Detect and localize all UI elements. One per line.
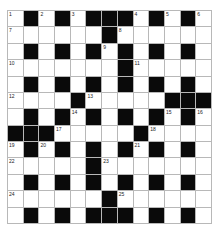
crossword-cell[interactable] [71, 44, 86, 59]
crossword-cell[interactable]: 13 [86, 93, 101, 108]
crossword-cell[interactable] [24, 60, 39, 75]
crossword-cell[interactable]: 25 [118, 191, 133, 206]
crossword-cell[interactable]: 23 [102, 158, 117, 173]
crossword-cell[interactable] [165, 27, 180, 42]
crossword-cell[interactable] [181, 158, 196, 173]
crossword-cell[interactable] [8, 44, 23, 59]
crossword-cell[interactable] [165, 60, 180, 75]
crossword-cell[interactable]: 11 [134, 60, 149, 75]
crossword-cell[interactable] [24, 93, 39, 108]
crossword-cell[interactable] [39, 109, 54, 124]
crossword-cell[interactable] [71, 142, 86, 157]
crossword-cell[interactable] [86, 60, 101, 75]
crossword-cell[interactable] [102, 93, 117, 108]
crossword-cell[interactable]: 2 [39, 11, 54, 26]
crossword-cell[interactable] [39, 27, 54, 42]
crossword-cell[interactable]: 17 [55, 126, 70, 141]
crossword-cell[interactable] [39, 44, 54, 59]
crossword-cell[interactable] [165, 126, 180, 141]
crossword-cell[interactable]: 5 [165, 11, 180, 26]
crossword-cell[interactable] [196, 158, 211, 173]
crossword-cell[interactable] [118, 126, 133, 141]
crossword-cell[interactable] [71, 27, 86, 42]
crossword-cell[interactable] [196, 175, 211, 190]
crossword-cell[interactable] [196, 60, 211, 75]
crossword-cell[interactable]: 20 [39, 142, 54, 157]
crossword-cell[interactable]: 3 [71, 11, 86, 26]
crossword-cell[interactable]: 7 [8, 27, 23, 42]
crossword-cell[interactable] [8, 175, 23, 190]
crossword-cell[interactable] [102, 142, 117, 157]
crossword-cell[interactable] [181, 191, 196, 206]
crossword-cell[interactable] [196, 44, 211, 59]
crossword-cell[interactable] [134, 93, 149, 108]
crossword-cell[interactable]: 21 [134, 142, 149, 157]
crossword-cell[interactable]: 10 [8, 60, 23, 75]
crossword-cell[interactable] [24, 191, 39, 206]
crossword-cell[interactable] [165, 44, 180, 59]
crossword-cell[interactable] [165, 158, 180, 173]
crossword-cell[interactable] [165, 208, 180, 223]
crossword-cell[interactable] [8, 109, 23, 124]
crossword-cell[interactable] [149, 191, 164, 206]
crossword-cell[interactable] [39, 60, 54, 75]
crossword-cell[interactable] [39, 191, 54, 206]
crossword-cell[interactable] [118, 93, 133, 108]
crossword-cell[interactable]: 22 [8, 158, 23, 173]
crossword-cell[interactable] [71, 77, 86, 92]
crossword-cell[interactable] [71, 175, 86, 190]
crossword-cell[interactable] [8, 208, 23, 223]
crossword-cell[interactable] [55, 93, 70, 108]
crossword-cell[interactable] [102, 60, 117, 75]
crossword-cell[interactable] [149, 60, 164, 75]
crossword-cell[interactable] [39, 158, 54, 173]
crossword-cell[interactable] [102, 77, 117, 92]
crossword-cell[interactable] [134, 208, 149, 223]
crossword-cell[interactable] [102, 109, 117, 124]
crossword-cell[interactable]: 24 [8, 191, 23, 206]
crossword-cell[interactable] [55, 191, 70, 206]
crossword-cell[interactable] [165, 175, 180, 190]
crossword-cell[interactable] [118, 158, 133, 173]
crossword-cell[interactable] [165, 142, 180, 157]
crossword-cell[interactable] [149, 158, 164, 173]
crossword-cell[interactable] [196, 77, 211, 92]
crossword-cell[interactable] [149, 27, 164, 42]
crossword-cell[interactable] [134, 158, 149, 173]
crossword-cell[interactable] [181, 27, 196, 42]
crossword-cell[interactable] [39, 175, 54, 190]
crossword-cell[interactable] [39, 208, 54, 223]
crossword-cell[interactable]: 8 [118, 27, 133, 42]
crossword-cell[interactable] [102, 126, 117, 141]
crossword-cell[interactable] [71, 60, 86, 75]
crossword-cell[interactable] [102, 175, 117, 190]
crossword-cell[interactable] [196, 126, 211, 141]
crossword-cell[interactable]: 12 [8, 93, 23, 108]
crossword-cell[interactable] [55, 27, 70, 42]
crossword-cell[interactable] [165, 77, 180, 92]
crossword-cell[interactable] [86, 27, 101, 42]
crossword-cell[interactable] [196, 191, 211, 206]
crossword-cell[interactable] [181, 126, 196, 141]
crossword-cell[interactable] [134, 77, 149, 92]
crossword-cell[interactable] [71, 208, 86, 223]
crossword-cell[interactable]: 19 [8, 142, 23, 157]
crossword-cell[interactable]: 15 [165, 109, 180, 124]
crossword-cell[interactable] [55, 60, 70, 75]
crossword-cell[interactable] [196, 208, 211, 223]
crossword-cell[interactable] [39, 93, 54, 108]
crossword-cell[interactable] [86, 126, 101, 141]
crossword-cell[interactable]: 14 [71, 109, 86, 124]
crossword-cell[interactable] [24, 27, 39, 42]
crossword-cell[interactable] [134, 27, 149, 42]
crossword-cell[interactable] [86, 191, 101, 206]
crossword-cell[interactable]: 18 [149, 126, 164, 141]
crossword-cell[interactable] [134, 175, 149, 190]
crossword-cell[interactable] [181, 60, 196, 75]
crossword-cell[interactable] [196, 142, 211, 157]
crossword-cell[interactable] [71, 158, 86, 173]
crossword-cell[interactable]: 16 [196, 109, 211, 124]
crossword-cell[interactable] [55, 158, 70, 173]
crossword-cell[interactable] [196, 27, 211, 42]
crossword-cell[interactable] [149, 93, 164, 108]
